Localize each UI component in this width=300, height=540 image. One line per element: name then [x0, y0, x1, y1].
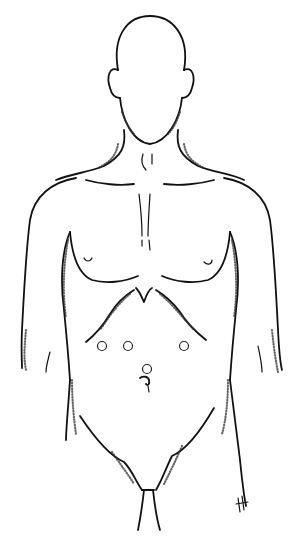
port-left-lateral — [98, 342, 107, 351]
port-left-medial — [124, 342, 133, 351]
left-arm — [22, 178, 76, 380]
port-right — [180, 342, 189, 351]
rib-margin — [86, 288, 206, 342]
sternum — [139, 194, 150, 250]
head — [108, 16, 193, 144]
chest — [70, 232, 230, 282]
groin — [80, 408, 214, 530]
clavicles — [86, 180, 214, 185]
torso-drawing — [0, 0, 300, 540]
right-arm — [224, 178, 282, 380]
neck — [56, 130, 244, 180]
torso-illustration — [0, 0, 300, 540]
umbilicus — [140, 377, 149, 392]
abdomen-outline — [66, 380, 246, 506]
port-sites — [98, 342, 189, 374]
port-umbilical — [143, 365, 152, 374]
